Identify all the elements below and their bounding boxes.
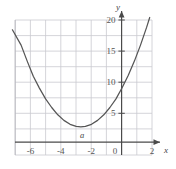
y-axis-label: y — [115, 2, 120, 12]
x-tick-label-neg6: -6 — [27, 146, 35, 156]
y-tick-label-15: 15 — [107, 46, 117, 56]
x-tick-label-2: 2 — [150, 146, 155, 156]
x-tick-label-neg2: -2 — [87, 146, 95, 156]
chart-canvas: -6 -4 -2 0 2 5 10 15 20 y x a — [0, 0, 176, 169]
y-tick-label-10: 10 — [107, 77, 117, 87]
y-tick-label-20: 20 — [107, 15, 117, 25]
x-tick-label-zero: 0 — [113, 146, 118, 156]
x-tick-label-neg4: -4 — [57, 146, 65, 156]
y-axis-arrow-icon — [119, 11, 125, 18]
y-tick-label-5: 5 — [111, 108, 116, 118]
x-axis-arrow-icon — [154, 139, 161, 145]
parabola-chart: -6 -4 -2 0 2 5 10 15 20 y x a — [0, 0, 176, 169]
vertex-point-label: a — [80, 130, 84, 140]
x-axis-label: x — [163, 145, 168, 155]
